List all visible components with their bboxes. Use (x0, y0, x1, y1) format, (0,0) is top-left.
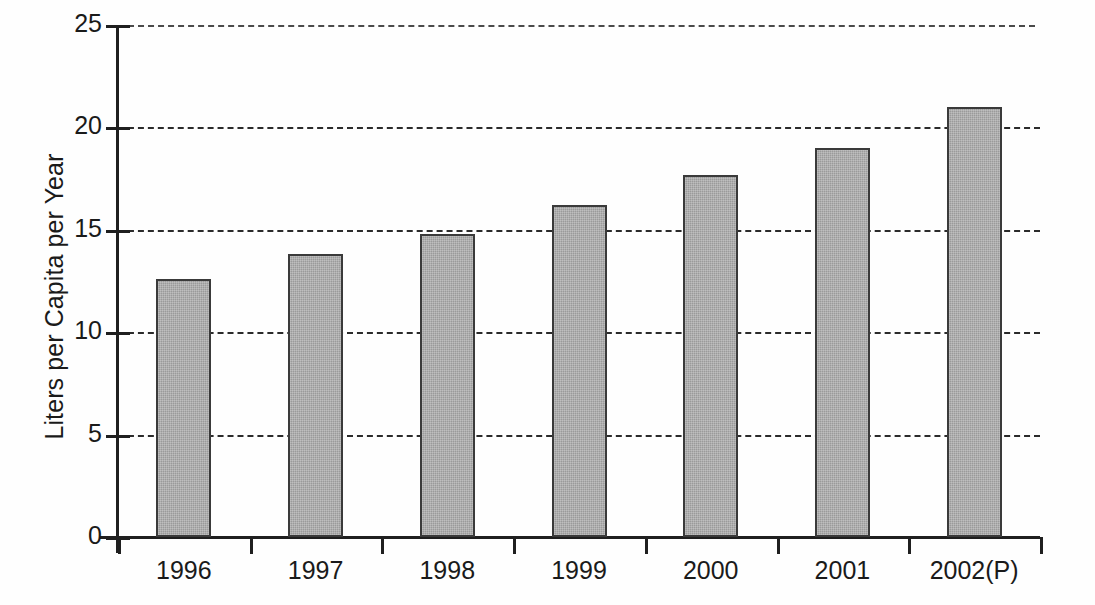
x-axis-tick-mark (1040, 537, 1043, 554)
y-axis-tick-label: 10 (56, 316, 102, 345)
x-axis-tick-mark (645, 537, 648, 554)
x-axis-tick-mark (118, 537, 121, 554)
y-axis-line (116, 25, 119, 553)
y-axis-tick-mark (106, 25, 130, 28)
bar (683, 175, 738, 537)
bar (947, 107, 1002, 537)
y-axis-tick-label: 0 (56, 521, 102, 550)
x-axis-tick-mark (908, 537, 911, 554)
y-axis-tick-label: 15 (56, 214, 102, 243)
y-axis-tick-mark (106, 230, 130, 233)
x-axis-tick-mark (513, 537, 516, 554)
bar (420, 234, 475, 537)
gridline (118, 127, 1040, 129)
x-axis-tick-label: 2002(P) (894, 556, 1054, 585)
x-axis-tick-mark (381, 537, 384, 554)
bar (815, 148, 870, 537)
bar (552, 205, 607, 537)
y-axis-tick-mark (106, 332, 130, 335)
y-axis-tick-mark (106, 435, 130, 438)
bar-chart: Liters per Capita per Year 0510152025 19… (0, 0, 1095, 605)
y-axis-tick-mark (106, 127, 130, 130)
y-axis-tick-label: 5 (56, 419, 102, 448)
plot-area: 0510152025 1996199719981999200020012002(… (0, 0, 1095, 605)
bar (288, 254, 343, 537)
gridline (118, 25, 1035, 27)
x-axis-tick-mark (777, 537, 780, 554)
y-axis-tick-label: 25 (56, 9, 102, 38)
y-axis-tick-label: 20 (56, 111, 102, 140)
bar (156, 279, 211, 537)
x-axis-tick-mark (250, 537, 253, 554)
